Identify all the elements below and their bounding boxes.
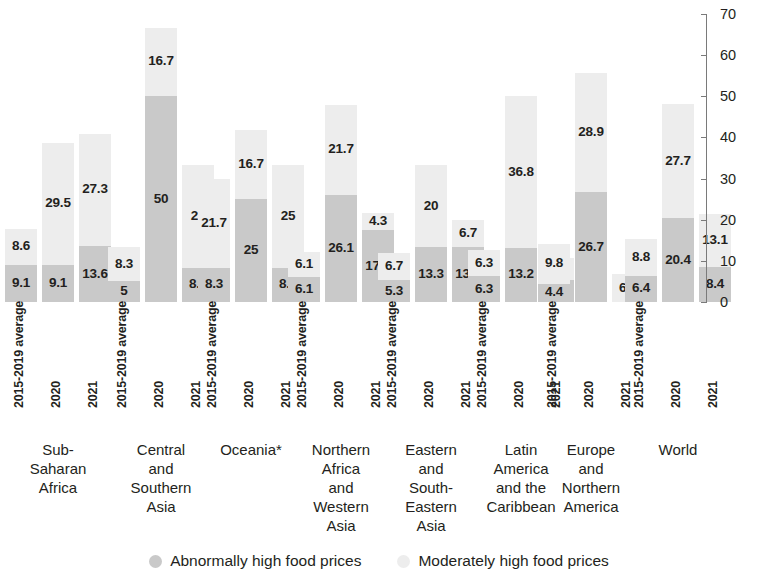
period-tick-label: 2021 <box>189 381 203 408</box>
value-label-abnormally-high: 8.3 <box>205 277 223 291</box>
period-tick-label: 2020 <box>152 381 166 408</box>
plot-area: 9.18.69.129.513.627.358.35016.78.3258.32… <box>0 14 700 302</box>
y-axis-tick <box>701 96 707 97</box>
chart-legend: Abnormally high food pricesModerately hi… <box>0 552 758 570</box>
value-label-moderately-high: 6.1 <box>295 257 313 271</box>
value-label-abnormally-high: 26.1 <box>328 241 353 255</box>
value-label-moderately-high: 21.7 <box>201 216 226 230</box>
stacked-bar[interactable]: 26.121.7 <box>325 105 357 302</box>
stacked-bar[interactable]: 9.18.6 <box>5 229 37 302</box>
period-tick-label: 2015-2019 average <box>545 301 559 408</box>
legend-label: Moderately high food prices <box>418 552 608 570</box>
period-tick-label: 2020 <box>582 381 596 408</box>
x-axis-period-labels: 2015-2019 average202020212015-2019 avera… <box>0 304 700 408</box>
y-axis-tick-label: 40 <box>720 129 736 145</box>
y-axis-tick <box>701 137 707 138</box>
stacked-bar[interactable]: 6.48.8 <box>625 239 657 302</box>
x-axis-region-labels: Sub-SaharanAfricaCentralandSouthernAsiaO… <box>0 440 700 540</box>
stacked-bar[interactable]: 6.16.1 <box>288 252 320 302</box>
stacked-bar[interactable]: 6.36.3 <box>468 250 500 302</box>
y-axis-line <box>706 14 707 303</box>
value-label-moderately-high: 27.3 <box>82 182 107 196</box>
value-label-abnormally-high: 4.4 <box>545 285 563 299</box>
value-label-abnormally-high: 13.3 <box>418 267 443 281</box>
value-label-abnormally-high: 26.7 <box>578 240 603 254</box>
stacked-bar[interactable]: 9.129.5 <box>42 143 74 302</box>
stacked-bar[interactable]: 5.36.7 <box>378 253 410 302</box>
value-label-abnormally-high: 13.6 <box>82 267 107 281</box>
value-label-abnormally-high: 6.1 <box>295 282 313 296</box>
value-label-moderately-high: 8.3 <box>115 257 133 271</box>
legend-item[interactable]: Abnormally high food prices <box>149 552 361 570</box>
value-label-moderately-high: 21.7 <box>328 142 353 156</box>
value-label-moderately-high: 6.3 <box>475 256 493 270</box>
stacked-bar[interactable]: 5016.7 <box>145 28 177 302</box>
value-label-moderately-high: 16.7 <box>148 54 173 68</box>
value-label-moderately-high: 9.8 <box>545 256 563 270</box>
y-axis-tick <box>701 261 707 262</box>
value-label-moderately-high: 16.7 <box>238 157 263 171</box>
period-tick-label: 2021 <box>706 381 720 408</box>
value-label-abnormally-high: 13.2 <box>508 267 533 281</box>
stacked-bar[interactable]: 13.320 <box>415 165 447 302</box>
y-axis-tick <box>701 55 707 56</box>
period-tick-label: 2015-2019 average <box>475 301 489 408</box>
period-tick-label: 2021 <box>459 381 473 408</box>
period-tick-label: 2015-2019 average <box>12 301 26 408</box>
y-axis-tick-label: 70 <box>720 6 736 22</box>
legend-item[interactable]: Moderately high food prices <box>397 552 608 570</box>
stacked-bar[interactable]: 20.427.7 <box>662 104 694 302</box>
period-tick-label: 2020 <box>242 381 256 408</box>
y-axis: 010203040506070 <box>706 14 758 302</box>
period-tick-label: 2015-2019 average <box>632 301 646 408</box>
value-label-moderately-high: 8.8 <box>632 250 650 264</box>
period-tick-label: 2015-2019 average <box>205 301 219 408</box>
stacked-bar[interactable]: 4.49.8 <box>538 244 570 302</box>
value-label-moderately-high: 6.7 <box>385 259 403 273</box>
y-axis-tick-label: 50 <box>720 88 736 104</box>
circle-swatch-light-icon <box>397 555 410 568</box>
period-tick-label: 2020 <box>49 381 63 408</box>
period-tick-label: 2021 <box>86 381 100 408</box>
circle-swatch-dark-icon <box>149 555 162 568</box>
period-tick-label: 2020 <box>512 381 526 408</box>
stacked-bar[interactable]: 13.627.3 <box>79 134 111 302</box>
y-axis-tick <box>701 220 707 221</box>
value-label-moderately-high: 27.7 <box>665 154 690 168</box>
value-label-abnormally-high: 50 <box>154 192 169 206</box>
region-label: World <box>617 440 739 459</box>
period-tick-label: 2020 <box>669 381 683 408</box>
period-tick-label: 2021 <box>619 381 633 408</box>
stacked-bar-chart: 9.18.69.129.513.627.358.35016.78.3258.32… <box>0 0 758 578</box>
value-label-moderately-high: 28.9 <box>578 125 603 139</box>
legend-label: Abnormally high food prices <box>170 552 361 570</box>
value-label-abnormally-high: 6.3 <box>475 282 493 296</box>
stacked-bar[interactable]: 58.3 <box>108 247 140 302</box>
y-axis-tick-label: 10 <box>720 253 736 269</box>
y-axis-tick <box>701 302 707 303</box>
value-label-abnormally-high: 20.4 <box>665 253 690 267</box>
stacked-bar[interactable]: 8.321.7 <box>198 179 230 302</box>
value-label-abnormally-high: 5.3 <box>385 284 403 298</box>
bar-group: 9.18.69.129.513.627.3 <box>5 14 111 302</box>
value-label-moderately-high: 8.6 <box>12 239 30 253</box>
y-axis-tick-label: 20 <box>720 212 736 228</box>
stacked-bar[interactable]: 2516.7 <box>235 130 267 302</box>
period-tick-label: 2015-2019 average <box>115 301 129 408</box>
y-axis-tick <box>701 179 707 180</box>
stacked-bar[interactable]: 26.728.9 <box>575 73 607 302</box>
period-tick-label: 2015-2019 average <box>385 301 399 408</box>
stacked-bar[interactable]: 13.236.8 <box>505 96 537 302</box>
value-label-abnormally-high: 25 <box>244 243 259 257</box>
value-label-abnormally-high: 5 <box>120 284 127 298</box>
period-tick-label: 2020 <box>422 381 436 408</box>
period-tick-label: 2021 <box>279 381 293 408</box>
y-axis-tick-label: 30 <box>720 171 736 187</box>
y-axis-tick <box>701 14 707 15</box>
period-tick-label: 2015-2019 average <box>295 301 309 408</box>
value-label-abnormally-high: 9.1 <box>49 276 67 290</box>
value-label-abnormally-high: 9.1 <box>12 276 30 290</box>
y-axis-tick-label: 60 <box>720 47 736 63</box>
value-label-moderately-high: 29.5 <box>45 196 70 210</box>
y-axis-tick-label: 0 <box>720 294 728 310</box>
